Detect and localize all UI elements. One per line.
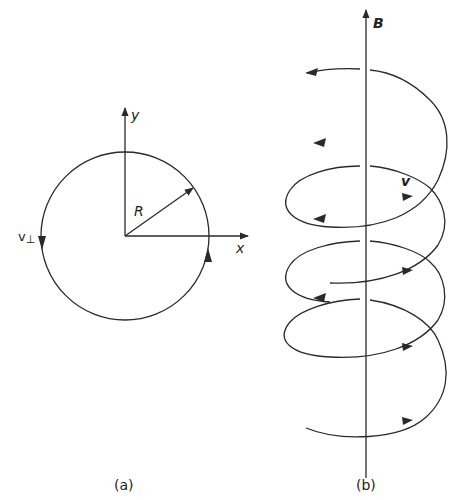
orbit-arrow-left-down-icon <box>38 236 46 250</box>
helix-arrow-icon <box>402 417 413 425</box>
panel-b-helical-trajectory: B v (b) <box>284 10 447 493</box>
helix-arrow-icon <box>305 68 318 76</box>
y-axis-label: y <box>130 107 140 123</box>
radius-label: R <box>134 203 144 219</box>
orbit-arrow-right-up-icon <box>204 248 212 262</box>
diagram-canvas: y x R v⊥ (a) B <box>0 0 452 500</box>
panel-a-circular-orbit: y x R v⊥ (a) <box>18 107 248 493</box>
velocity-perp-label: v⊥ <box>18 229 35 246</box>
helix-arrow-icon <box>402 193 413 201</box>
helix-arrow-icon <box>402 267 413 275</box>
helix-arrow-icon <box>313 138 326 147</box>
helix-arrow-icon <box>313 214 326 223</box>
velocity-label: v <box>401 173 411 189</box>
caption-a: (a) <box>114 477 134 493</box>
field-label: B <box>373 15 384 31</box>
caption-b: (b) <box>356 477 376 493</box>
x-axis-label: x <box>235 240 245 256</box>
